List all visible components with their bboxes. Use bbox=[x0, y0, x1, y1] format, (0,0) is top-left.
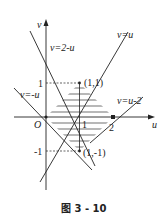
shaded-region-hatching bbox=[40, 88, 120, 147]
origin-point bbox=[44, 115, 47, 118]
point-1-1 bbox=[78, 82, 81, 85]
u-axis-label: u bbox=[152, 119, 157, 130]
tick-label-v-minus1: -1 bbox=[34, 146, 42, 157]
label-v-equals-minus-u: v=-u bbox=[20, 89, 40, 100]
point-1-minus1 bbox=[78, 150, 81, 153]
v-axis-arrow-icon bbox=[44, 19, 49, 26]
v-axis-label: v bbox=[37, 19, 42, 30]
coordinate-diagram: v u O v=2-u v=u v=-u v=u-2 1 -1 1 2 (1,1… bbox=[0, 0, 164, 219]
figure-caption: 图 3 - 10 bbox=[61, 203, 107, 214]
tick-label-u-1: 1 bbox=[82, 119, 87, 130]
point-label-1-minus1: (1,-1) bbox=[83, 147, 106, 159]
label-v-equals-u: v=u bbox=[117, 29, 133, 40]
label-v-equals-2-minus-u: v=2-u bbox=[50, 42, 75, 53]
label-v-equals-u-minus-2: v=u-2 bbox=[117, 95, 142, 106]
origin-label: O bbox=[34, 119, 41, 130]
tick-label-u-2: 2 bbox=[109, 122, 114, 133]
point-2-0 bbox=[111, 115, 115, 119]
tick-label-v-1: 1 bbox=[38, 78, 43, 89]
point-label-1-1: (1,1) bbox=[84, 77, 103, 89]
line-v-equals-u bbox=[40, 32, 128, 182]
